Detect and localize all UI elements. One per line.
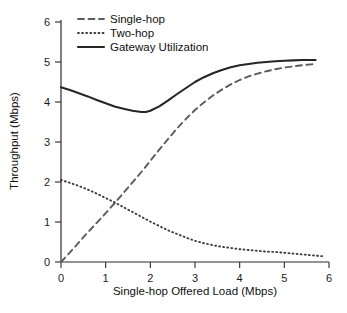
legend-label-gateway-utilization: Gateway Utilization: [110, 41, 208, 53]
x-tick-label: 1: [103, 272, 109, 284]
x-tick-label: 2: [147, 272, 153, 284]
chart-legend: Single-hopTwo-hopGateway Utilization: [78, 13, 208, 53]
x-tick-label: 5: [281, 272, 287, 284]
y-axis-ticks: 0123456: [44, 16, 61, 268]
series-single-hop: [61, 64, 316, 262]
plot-axes: [61, 20, 329, 262]
y-tick-label: 0: [44, 256, 50, 268]
y-axis-title: Throughput (Mbps): [8, 92, 20, 190]
x-tick-label: 6: [326, 272, 332, 284]
line-chart: 0123456 0123456 Single-hopTwo-hopGateway…: [0, 0, 347, 313]
y-tick-label: 5: [44, 56, 50, 68]
series-gateway-utilization: [61, 60, 316, 112]
x-axis-ticks: 0123456: [58, 262, 332, 284]
x-tick-label: 0: [58, 272, 64, 284]
y-tick-label: 1: [44, 216, 50, 228]
legend-label-two-hop: Two-hop: [110, 27, 154, 39]
x-axis-title: Single-hop Offered Load (Mbps): [113, 285, 277, 297]
x-tick-label: 3: [192, 272, 198, 284]
chart-figure: 0123456 0123456 Single-hopTwo-hopGateway…: [0, 0, 347, 313]
data-series-group: [61, 60, 325, 262]
y-tick-label: 3: [44, 136, 50, 148]
x-tick-label: 4: [237, 272, 243, 284]
legend-label-single-hop: Single-hop: [110, 13, 165, 25]
y-tick-label: 2: [44, 176, 50, 188]
y-tick-label: 6: [44, 16, 50, 28]
y-tick-label: 4: [44, 96, 50, 108]
